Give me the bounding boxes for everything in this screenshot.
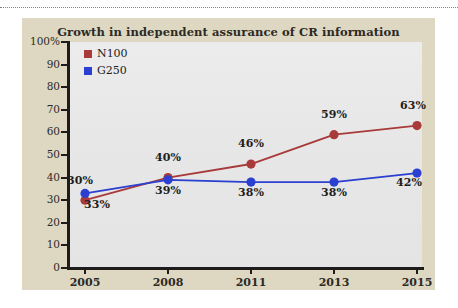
data-point-n100-2015[interactable] — [412, 121, 421, 130]
data-label-g250-2011: 38% — [226, 186, 276, 199]
data-point-n100-2013[interactable] — [329, 130, 338, 139]
data-label-n100-2011: 46% — [226, 137, 276, 150]
data-point-g250-2005[interactable] — [80, 189, 89, 198]
data-label-g250-2015: 42% — [384, 176, 434, 189]
data-label-n100-2013: 59% — [309, 108, 359, 121]
data-label-n100-2015: 63% — [388, 99, 438, 112]
chart-figure-panel: Growth in independent assurance of CR in… — [22, 18, 435, 290]
data-label-g250-2005: 33% — [72, 198, 122, 211]
top-dotted-divider — [0, 7, 458, 8]
data-label-g250-2013: 38% — [309, 186, 359, 199]
data-label-n100-2008: 40% — [143, 151, 193, 164]
series-plot — [22, 18, 435, 290]
data-label-g250-2008: 39% — [143, 184, 193, 197]
data-label-n100-2005: 30% — [55, 174, 105, 187]
data-point-n100-2011[interactable] — [246, 159, 255, 168]
